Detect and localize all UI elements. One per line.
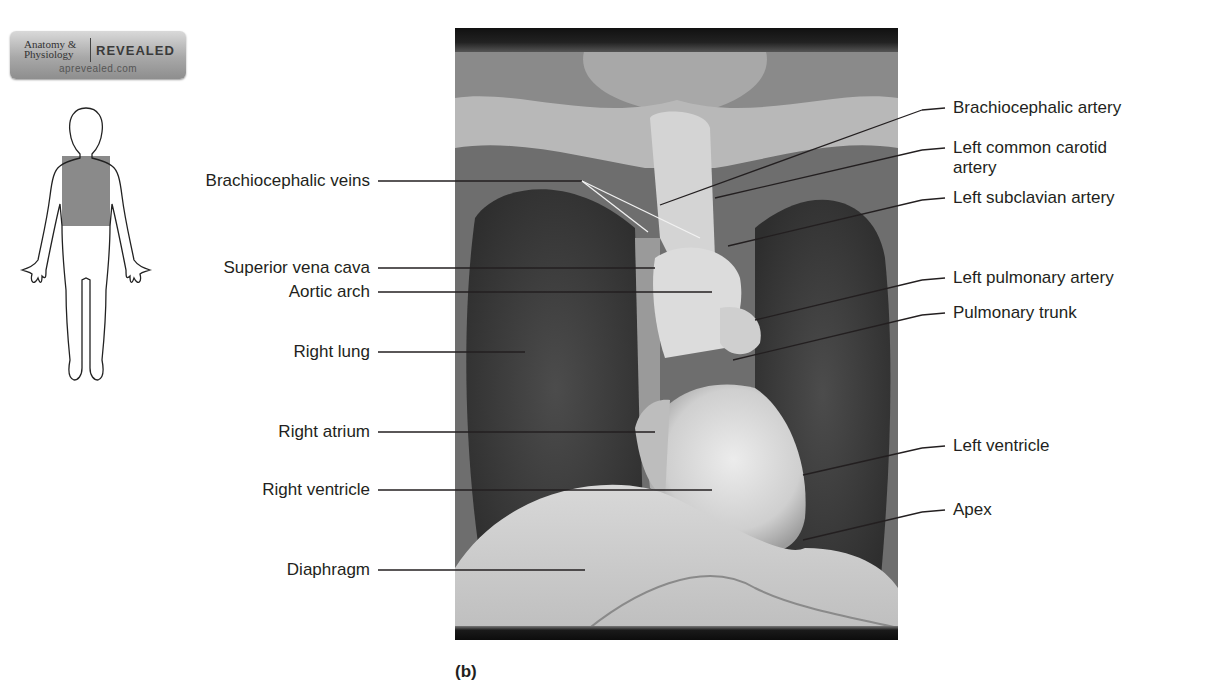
label-right-apex: Apex xyxy=(953,500,992,520)
leader-line xyxy=(922,108,945,110)
label-right-left-subclavian-artery: Left subclavian artery xyxy=(953,188,1115,208)
leader-line xyxy=(922,198,945,200)
logo-anatomy-physiology: Anatomy & Physiology xyxy=(24,39,86,59)
app-logo: Anatomy & Physiology REVEALED aprevealed… xyxy=(10,31,186,79)
logo-url: aprevealed.com xyxy=(10,63,186,74)
label-left-right-ventricle: Right ventricle xyxy=(262,480,370,500)
logo-divider xyxy=(90,38,91,62)
body-outline-icon xyxy=(12,100,162,400)
label-left-aortic-arch: Aortic arch xyxy=(289,282,370,302)
label-left-superior-vena-cava: Superior vena cava xyxy=(224,258,370,278)
label-left-brachiocephalic-veins: Brachiocephalic veins xyxy=(206,171,370,191)
leader-line xyxy=(922,148,945,150)
thorax-highlight xyxy=(62,156,110,226)
logo-line2: Physiology xyxy=(24,49,86,59)
label-left-right-atrium: Right atrium xyxy=(278,422,370,442)
leader-line xyxy=(922,313,945,315)
leader-line xyxy=(922,446,945,448)
label-right-pulmonary-trunk: Pulmonary trunk xyxy=(953,303,1077,323)
label-right-left-ventricle: Left ventricle xyxy=(953,436,1049,456)
label-left-right-lung: Right lung xyxy=(293,342,370,362)
logo-brand: REVEALED xyxy=(96,43,175,58)
figure-caption: (b) xyxy=(455,662,477,682)
label-right-left-common-carotid: Left common carotidartery xyxy=(953,138,1107,178)
thoracic-cavity-photo xyxy=(455,28,898,640)
label-right-brachiocephalic-artery: Brachiocephalic artery xyxy=(953,98,1121,118)
label-right-left-pulmonary-artery: Left pulmonary artery xyxy=(953,268,1114,288)
label-left-diaphragm: Diaphragm xyxy=(287,560,370,580)
leader-line xyxy=(922,278,945,280)
photo-bottom-border xyxy=(455,626,898,640)
photo-top-border xyxy=(455,28,898,52)
photo-illustration xyxy=(455,28,898,640)
leader-line xyxy=(922,510,945,512)
